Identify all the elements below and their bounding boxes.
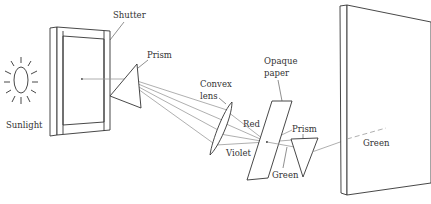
sun-icon (4, 57, 38, 104)
opaque-label-1: Opaque (264, 56, 297, 66)
green-label-screen: Green (363, 138, 390, 148)
shutter-leader (110, 22, 124, 40)
sunlight-label: Sunlight (6, 120, 43, 130)
prism-1-leader (138, 60, 148, 68)
red-label: Red (243, 119, 260, 129)
screen (340, 5, 431, 195)
green-label-below: Green (272, 170, 299, 180)
prism-1 (110, 64, 141, 108)
prism-2-label: Prism (292, 124, 317, 134)
violet-label: Violet (225, 148, 252, 158)
shutter (50, 27, 110, 136)
convex-label-2: lens (200, 91, 218, 101)
convex-label-1: Convex (200, 79, 232, 89)
convex-leader (219, 98, 226, 104)
optics-diagram: Sunlight Shutter Prism Convex lens Red V… (0, 0, 431, 204)
green-leader (283, 147, 287, 168)
dispersed-rays (134, 80, 227, 143)
shutter-label: Shutter (113, 10, 147, 20)
prism-1-label: Prism (147, 50, 172, 60)
opaque-leader (278, 80, 282, 101)
opaque-label-2: paper (264, 68, 290, 78)
